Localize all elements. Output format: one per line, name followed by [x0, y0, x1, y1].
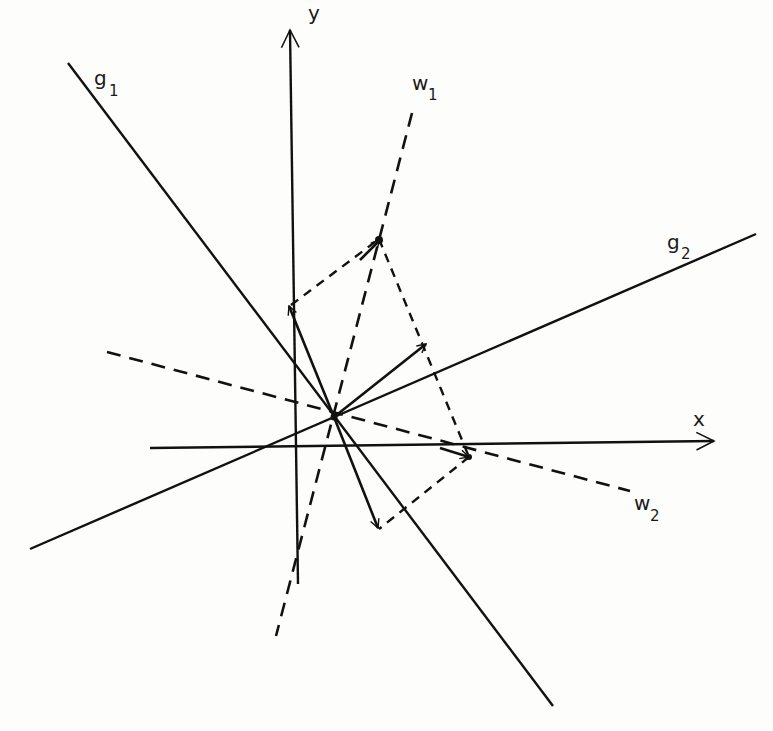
g2-label: g [667, 230, 680, 254]
w1-line [276, 113, 412, 636]
w2-label: w [634, 491, 650, 515]
w1-point [375, 236, 383, 244]
w2-subscript: 2 [650, 507, 660, 525]
g2-subscript: 2 [681, 245, 691, 263]
w1-label: w [412, 71, 428, 95]
y-axis-label: y [308, 1, 320, 25]
x-axis-label: x [693, 407, 705, 431]
diagram-canvas: y x g 1 g 2 w 1 w 2 [0, 0, 773, 731]
y-axis [290, 30, 298, 584]
x-axis [150, 441, 714, 448]
resultant-vector [334, 344, 426, 417]
g1-component-vector-down [334, 417, 378, 528]
w1-subscript: 1 [428, 86, 438, 104]
g1-label: g [94, 66, 107, 90]
w2-line [107, 352, 630, 491]
w2-point [466, 454, 472, 460]
g1-subscript: 1 [109, 82, 119, 100]
g1-line [68, 63, 553, 706]
construction-line [379, 239, 469, 457]
origin-point [331, 414, 338, 421]
